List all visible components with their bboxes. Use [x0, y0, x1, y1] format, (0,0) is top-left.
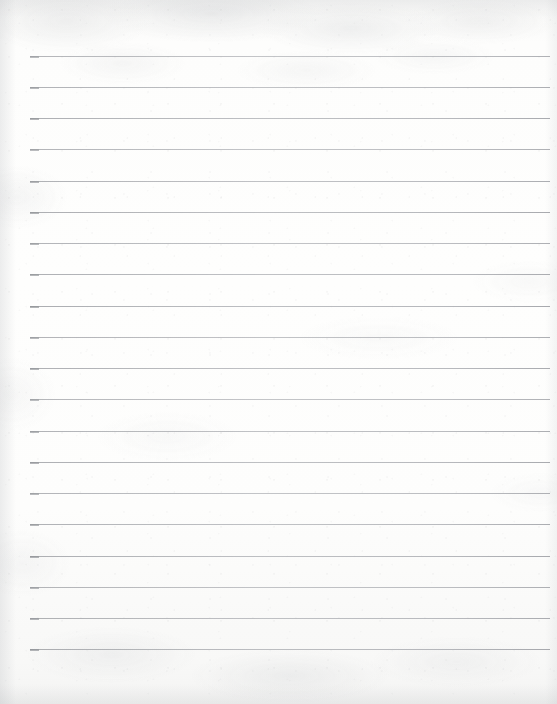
writing-area[interactable]: [30, 56, 550, 650]
scanned-page: [0, 0, 557, 704]
